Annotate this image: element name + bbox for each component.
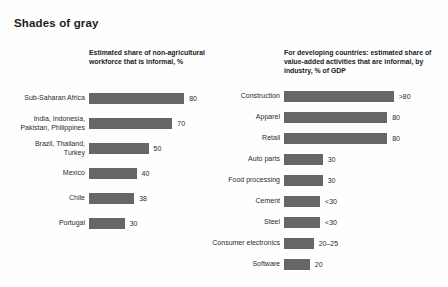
workforce-value-label: 38 <box>139 193 147 204</box>
industry-category-label: Consumer electronics <box>196 239 280 248</box>
workforce-value-label: 40 <box>142 168 150 179</box>
industry-category-label: Retail <box>196 134 280 143</box>
bar-rows-workforce: Sub-Saharan Africa80India, Indonesia, Pa… <box>0 86 224 236</box>
workforce-bar <box>89 93 184 104</box>
bar-zone: 30 <box>284 149 448 170</box>
bar-zone: 20–25 <box>284 233 448 254</box>
bar-row: Mexico40 <box>0 161 224 186</box>
bar-row: Construction>80 <box>196 86 448 107</box>
industry-bar <box>284 217 320 228</box>
workforce-bar <box>89 118 172 129</box>
bar-row: Sub-Saharan Africa80 <box>0 86 224 111</box>
industry-bar <box>284 238 314 249</box>
bar-row: Retail80 <box>196 128 448 149</box>
industry-category-label: Steel <box>196 218 280 227</box>
chart-subtitle-industry: For developing countries: estimated shar… <box>284 48 444 76</box>
workforce-category-label: Brazil, Thailand, Turkey <box>0 140 85 157</box>
workforce-category-label: Sub-Saharan Africa <box>0 94 85 103</box>
bar-zone: 80 <box>284 128 448 149</box>
industry-value-label: 30 <box>328 175 336 186</box>
bar-row: Software20 <box>196 254 448 275</box>
industry-value-label: 20 <box>315 259 323 270</box>
bar-zone: 20 <box>284 254 448 275</box>
industry-value-label: 20–25 <box>319 238 338 249</box>
figure-title-bar: Shades of gray <box>14 17 99 33</box>
bar-row: Steel<30 <box>196 212 448 233</box>
industry-category-label: Cement <box>196 197 280 206</box>
workforce-category-label: Chile <box>0 194 85 203</box>
workforce-value-label: 50 <box>154 143 162 154</box>
industry-bar <box>284 133 387 144</box>
bar-row: Apparel80 <box>196 107 448 128</box>
industry-value-label: <30 <box>325 196 337 207</box>
bar-row: Brazil, Thailand, Turkey50 <box>0 136 224 161</box>
industry-value-label: >80 <box>399 91 411 102</box>
workforce-category-label: Mexico <box>0 169 85 178</box>
industry-value-label: 80 <box>392 133 400 144</box>
figure-canvas: Shades of gray Estimated share of non-ag… <box>0 0 448 287</box>
industry-bar <box>284 196 320 207</box>
industry-value-label: 30 <box>328 154 336 165</box>
industry-category-label: Construction <box>196 92 280 101</box>
workforce-bar <box>89 193 134 204</box>
bar-row: Chile38 <box>0 186 224 211</box>
industry-category-label: Auto parts <box>196 155 280 164</box>
workforce-bar <box>89 143 149 154</box>
bar-row: Food processing30 <box>196 170 448 191</box>
bar-row: Auto parts30 <box>196 149 448 170</box>
industry-bar <box>284 154 323 165</box>
industry-category-label: Apparel <box>196 113 280 122</box>
workforce-value-label: 30 <box>130 218 138 229</box>
workforce-category-label: India, Indonesia, Pakistan, Philippines <box>0 115 85 132</box>
bar-row: Portugal30 <box>0 211 224 236</box>
workforce-bar <box>89 168 137 179</box>
chart-subtitle-workforce: Estimated share of non-agricultural work… <box>89 48 215 66</box>
industry-category-label: Software <box>196 260 280 269</box>
industry-bar <box>284 259 310 270</box>
industry-bar <box>284 91 394 102</box>
industry-value-label: 80 <box>392 112 400 123</box>
bar-row: Cement<30 <box>196 191 448 212</box>
bar-zone: >80 <box>284 86 448 107</box>
bar-rows-industry: Construction>80Apparel80Retail80Auto par… <box>196 86 448 275</box>
workforce-value-label: 70 <box>177 118 185 129</box>
bar-zone: 80 <box>284 107 448 128</box>
industry-category-label: Food processing <box>196 176 280 185</box>
industry-bar <box>284 112 387 123</box>
industry-value-label: <30 <box>325 217 337 228</box>
page-title: Shades of gray <box>14 17 99 29</box>
bar-row: Consumer electronics20–25 <box>196 233 448 254</box>
workforce-category-label: Portugal <box>0 219 85 228</box>
bar-zone: 30 <box>284 170 448 191</box>
bar-row: India, Indonesia, Pakistan, Philippines7… <box>0 111 224 136</box>
industry-bar <box>284 175 323 186</box>
bar-zone: <30 <box>284 191 448 212</box>
workforce-bar <box>89 218 125 229</box>
bar-zone: <30 <box>284 212 448 233</box>
